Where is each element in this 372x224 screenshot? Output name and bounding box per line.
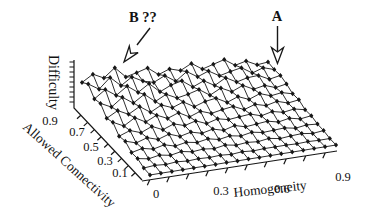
- y-tick-0.7: 0.7: [69, 125, 85, 139]
- arrow-head-icon: [124, 46, 138, 62]
- x-axis-label-homogeneity: Homogeneity: [233, 177, 308, 200]
- y-tick-0.5: 0.5: [83, 140, 99, 154]
- annotation-b-label: B ??: [129, 9, 157, 25]
- wireframe-mesh: [80, 57, 338, 177]
- y-tick-0.9: 0.9: [42, 114, 58, 128]
- annotation-a-arrow: [272, 26, 284, 64]
- x-tick-0.6: 0.6: [274, 182, 290, 196]
- surface-plot-figure: Difficulty Allowed Connectivity Homogene…: [0, 0, 372, 224]
- annotation-b-arrow: [124, 28, 150, 62]
- x-tick-0.9: 0.9: [335, 170, 351, 184]
- x-tick-0.3: 0.3: [213, 184, 229, 198]
- z-axis-label-difficulty: Difficulty: [46, 55, 61, 110]
- wireframe-surface-canvas: Difficulty Allowed Connectivity Homogene…: [0, 0, 372, 224]
- y-tick-0.1: 0.1: [112, 166, 128, 180]
- y-tick-0.3: 0.3: [97, 154, 113, 168]
- annotation-a-label: A: [272, 8, 283, 24]
- x-tick-0: 0: [153, 187, 159, 201]
